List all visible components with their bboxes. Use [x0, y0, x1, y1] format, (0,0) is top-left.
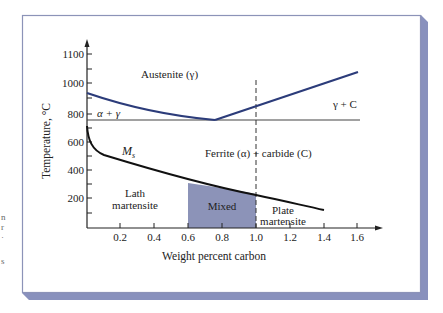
y-tick-label: 600	[68, 136, 85, 148]
x-tick-label: 1.6	[350, 231, 364, 243]
y-tick-label: 1100	[62, 48, 84, 60]
x-tick-label: 1.0	[249, 231, 263, 243]
label-ferrite-carbide: Ferrite (α) + carbide (C)	[205, 147, 312, 160]
page-edge-fragment: ·	[1, 232, 4, 242]
label-gamma-c: γ + C	[332, 98, 357, 110]
x-tick-label: 0.6	[181, 231, 195, 243]
label-lath-martensite: martensite	[112, 199, 158, 211]
page-edge-fragment: n	[1, 212, 6, 222]
x-tick-label: 1.2	[283, 231, 297, 243]
x-tick-label: 0.4	[147, 231, 161, 243]
y-tick-label: 800	[68, 108, 85, 120]
label-austenite: Austenite (γ)	[141, 68, 198, 81]
y-tick-label: 1000	[62, 77, 85, 89]
x-tick-label: 0.8	[215, 231, 229, 243]
y-axis-title: Temperature, °C	[40, 103, 53, 179]
figure: n r · s	[0, 0, 443, 313]
x-tick-label: 1.4	[317, 231, 331, 243]
label-lath: Lath	[125, 187, 146, 199]
label-alpha-gamma: α + γ	[97, 107, 121, 119]
label-plate-martensite: martensite	[260, 215, 306, 227]
y-tick-label: 200	[68, 192, 85, 204]
page-edge-fragment: r	[1, 222, 4, 232]
x-axis-title: Weight percent carbon	[162, 250, 266, 263]
y-tick-label: 400	[68, 164, 85, 176]
phase-diagram: 1100 1000 800 600 400 200 0.2 0.4 0.6 0.…	[0, 0, 443, 313]
x-tick-label: 0.2	[113, 231, 127, 243]
page-edge-fragment: s	[1, 256, 5, 266]
label-mixed: Mixed	[208, 200, 237, 212]
